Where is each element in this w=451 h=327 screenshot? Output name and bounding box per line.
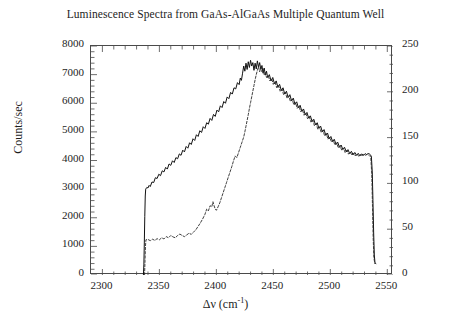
- x-axis-tick-2350: 2350: [128, 279, 188, 291]
- y-axis-left-tick-8000: 8000: [30, 37, 84, 49]
- plot-area: [90, 45, 392, 274]
- series-dashed-spectrum: [145, 67, 375, 275]
- spectra-plot: [91, 46, 393, 275]
- x-axis-tick-2400: 2400: [185, 279, 245, 291]
- x-axis-tick-2500: 2500: [299, 279, 359, 291]
- axis-tick-marks: [91, 46, 393, 275]
- y-axis-right-tick-50: 50: [402, 220, 413, 232]
- x-axis-title: Δν (cm-1): [0, 296, 451, 312]
- figure-container: Luminescence Spectra from GaAs-AlGaAs Mu…: [0, 0, 451, 327]
- chart-title: Luminescence Spectra from GaAs-AlGaAs Mu…: [0, 8, 451, 20]
- y-axis-left-tick-4000: 4000: [30, 152, 84, 164]
- y-axis-right-tick-100: 100: [402, 174, 419, 186]
- y-axis-right-tick-0: 0: [402, 266, 408, 278]
- y-axis-right-tick-250: 250: [402, 37, 419, 49]
- x-axis-title-tail: ): [244, 297, 248, 311]
- y-axis-left-tick-2000: 2000: [30, 209, 84, 221]
- series-solid-spectrum: [143, 60, 375, 275]
- x-axis-tick-2300: 2300: [71, 279, 131, 291]
- y-axis-left-tick-3000: 3000: [30, 180, 84, 192]
- x-axis-tick-2550: 2550: [356, 279, 416, 291]
- data-series-layer: [143, 60, 375, 275]
- y-axis-left-tick-7000: 7000: [30, 66, 84, 78]
- y-axis-right-tick-150: 150: [402, 129, 419, 141]
- y-axis-left-tick-0: 0: [30, 266, 84, 278]
- y-axis-right-tick-200: 200: [402, 83, 419, 95]
- y-axis-left-tick-5000: 5000: [30, 123, 84, 135]
- y-axis-left-tick-1000: 1000: [30, 237, 84, 249]
- y-axis-left-title: Counts/sec: [11, 68, 26, 188]
- y-axis-left-tick-6000: 6000: [30, 94, 84, 106]
- x-axis-tick-2450: 2450: [242, 279, 302, 291]
- x-axis-title-text: Δν (cm: [203, 297, 238, 311]
